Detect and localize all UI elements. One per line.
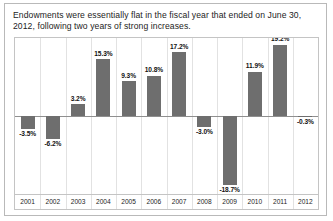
plot-inner: -3.5%-6.2%3.2%15.3%9.3%10.8%17.2%-3.0%-1…	[15, 38, 318, 194]
x-tick-label: 2007	[167, 198, 192, 205]
bar[interactable]	[248, 72, 262, 116]
plot-area: -3.5%-6.2%3.2%15.3%9.3%10.8%17.2%-3.0%-1…	[14, 37, 319, 195]
bar-value-label: 15.3%	[88, 50, 120, 57]
bar[interactable]	[21, 116, 35, 129]
x-tick-label: 2008	[192, 198, 217, 205]
x-tick-label: 2012	[293, 198, 318, 205]
bar-value-label: -3.5%	[14, 130, 43, 137]
bar-value-label: 19.2%	[264, 37, 296, 42]
x-tick-label: 2002	[40, 198, 65, 205]
bar[interactable]	[298, 116, 312, 117]
x-tick-label: 2003	[66, 198, 91, 205]
zero-baseline	[15, 116, 318, 117]
bar[interactable]	[223, 116, 237, 185]
bar[interactable]	[273, 45, 287, 116]
bar-value-label: -3.0%	[189, 128, 221, 135]
bar[interactable]	[197, 116, 211, 127]
x-tick-label: 2006	[141, 198, 166, 205]
x-tick-label: 2001	[15, 198, 40, 205]
x-tick-label: 2010	[242, 198, 267, 205]
bar[interactable]	[96, 59, 110, 116]
bar[interactable]	[147, 76, 161, 116]
bar[interactable]	[172, 52, 186, 116]
bar-value-label: -0.3%	[290, 118, 319, 125]
x-tick-label: 2011	[268, 198, 293, 205]
x-tick-label: 2009	[217, 198, 242, 205]
bar-value-label: -6.2%	[37, 140, 69, 147]
bar-value-label: 3.2%	[62, 95, 94, 102]
x-axis-labels: 2001200220032004200520062007200820092010…	[14, 195, 319, 210]
bar[interactable]	[71, 104, 85, 116]
x-tick-label: 2005	[116, 198, 141, 205]
bar-value-label: -18.7%	[214, 186, 246, 193]
bar[interactable]	[122, 81, 136, 116]
x-tick-label: 2004	[91, 198, 116, 205]
chart-title: Endowments were essentially flat in the …	[13, 10, 319, 33]
bar[interactable]	[46, 116, 60, 139]
bar-value-label: 17.2%	[163, 43, 195, 50]
bar-value-label: 11.9%	[239, 62, 271, 69]
chart-figure: Endowments were essentially flat in the …	[4, 3, 327, 216]
bar-value-label: 10.8%	[138, 66, 170, 73]
